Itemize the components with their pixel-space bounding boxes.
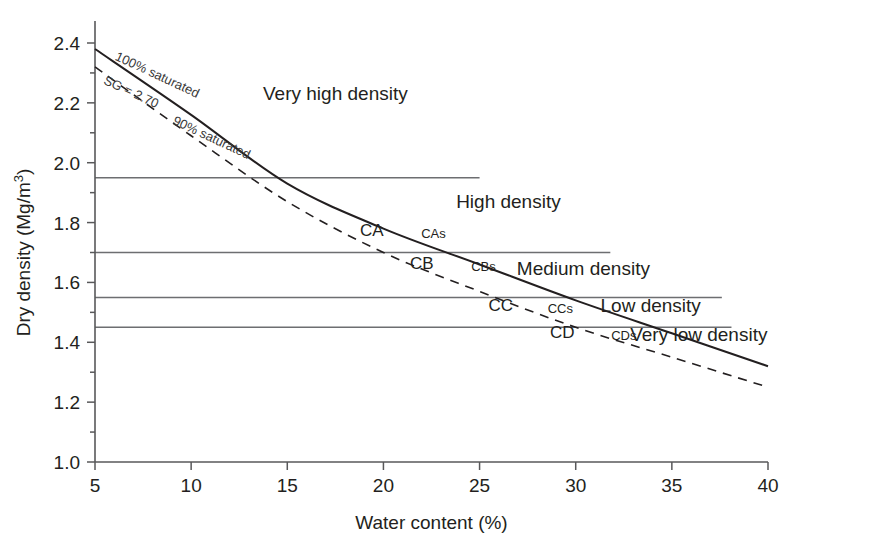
x-tick-label: 15 (277, 475, 298, 496)
x-tick-label: 5 (90, 475, 101, 496)
saturation-density-chart: 510152025303540 1.01.21.41.61.82.02.22.4… (0, 0, 871, 543)
y-tick-labels: 1.01.21.41.61.82.02.22.4 (54, 33, 81, 473)
class-label-cd: CD (550, 323, 575, 342)
curve-annotation-90-saturated: 90% saturated (171, 113, 253, 162)
x-tick-label: 30 (565, 475, 586, 496)
class-label-cds: CDs (611, 328, 637, 343)
class-label-cc: CC (488, 296, 513, 315)
region-label-low-density: Low density (601, 295, 702, 316)
plot-area: 510152025303540 1.01.21.41.61.82.02.22.4… (11, 21, 779, 533)
x-tick-label: 25 (469, 475, 490, 496)
x-tick-label: 35 (661, 475, 682, 496)
chart-svg: 510152025303540 1.01.21.41.61.82.02.22.4… (0, 0, 871, 543)
axis-titles: Water content (%)Dry density (Mg/m3) (11, 169, 508, 533)
y-tick-label: 1.0 (54, 452, 80, 473)
class-label-cb: CB (410, 254, 434, 273)
y-tick-label: 1.8 (54, 213, 80, 234)
class-label-cas: CAs (421, 226, 446, 241)
class-label-ca: CA (360, 221, 384, 240)
y-tick-label: 2.2 (54, 93, 80, 114)
x-tick-labels: 510152025303540 (90, 475, 779, 496)
x-tick-label: 20 (373, 475, 394, 496)
y-tick-label: 1.2 (54, 392, 80, 413)
soil-class-labels: CACAsCBCBsCCCCsCDCDs (360, 221, 637, 343)
class-label-cbs: CBs (471, 259, 496, 274)
y-tick-label: 2.0 (54, 153, 80, 174)
y-tick-label: 1.4 (54, 332, 81, 353)
x-tick-label: 40 (757, 475, 778, 496)
y-tick-label: 1.6 (54, 272, 80, 293)
y-tick-label: 2.4 (54, 33, 81, 54)
region-label-very-low-density: Very low density (630, 324, 768, 345)
region-label-very-high-density: Very high density (263, 83, 408, 104)
region-label-high-density: High density (456, 191, 561, 212)
region-label-medium-density: Medium density (517, 258, 651, 279)
x-tick-label: 10 (181, 475, 202, 496)
y-axis-title: Dry density (Mg/m3) (11, 169, 35, 337)
x-axis-title: Water content (%) (355, 512, 507, 533)
class-label-ccs: CCs (548, 301, 574, 316)
